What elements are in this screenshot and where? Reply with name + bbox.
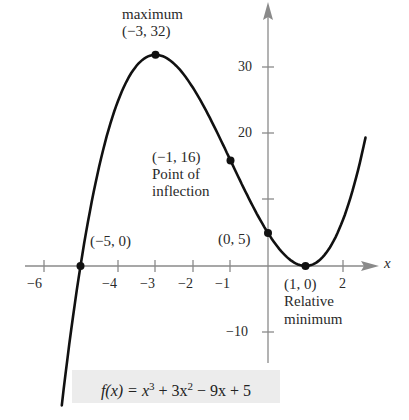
x-tick-m2: −2: [178, 276, 193, 292]
min-line1-label: Relative: [284, 293, 334, 310]
inflection-line1-label: Point of: [152, 166, 200, 183]
y-intercept-marker: [264, 229, 272, 237]
y-tick-m10: −10: [226, 324, 248, 340]
inflection-point-marker: [227, 156, 235, 164]
formula-rhs: − 9x + 5: [193, 382, 251, 399]
inflection-point-label: (−1, 16): [152, 149, 200, 166]
y-intercept-label: (0, 5): [218, 231, 251, 248]
x-tick-m1: −1: [215, 276, 230, 292]
inflection-line2-label: inflection: [152, 183, 209, 200]
function-formula: f(x) = x3 + 3x2 − 9x + 5: [72, 370, 280, 403]
y-tick-20: 20: [238, 125, 252, 141]
zero-label: (−5, 0): [90, 233, 131, 250]
min-point-marker: [302, 262, 310, 270]
x-tick-p2: 2: [339, 276, 346, 292]
max-point-marker: [152, 51, 160, 59]
min-point-label: (1, 0): [284, 276, 317, 293]
chart-canvas: [0, 0, 409, 420]
formula-lhs: f(x) = x: [101, 382, 149, 399]
formula-mid: + 3x: [155, 382, 188, 399]
x-tick-m4: −4: [102, 276, 117, 292]
y-tick-30: 30: [238, 59, 252, 75]
x-axis-label: x: [384, 255, 391, 272]
zero-marker: [77, 262, 85, 270]
max-point-label: (−3, 32): [122, 23, 170, 40]
x-tick-m6: −6: [27, 276, 42, 292]
x-tick-m3: −3: [140, 276, 155, 292]
function-curve: [62, 55, 366, 406]
max-title-label: maximum: [122, 6, 183, 23]
min-line2-label: minimum: [284, 311, 342, 328]
